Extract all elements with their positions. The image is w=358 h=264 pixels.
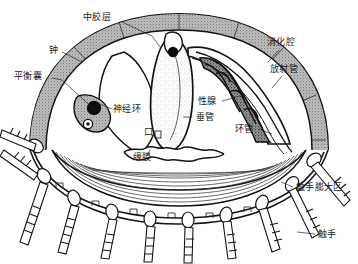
label-manubrium: 垂管 bbox=[196, 111, 215, 122]
label-mesoglea: 中胶层 bbox=[83, 11, 111, 22]
diagram-canvas: 中胶层 钟 平衡囊 神经环 消化腔 放射管 性腺 垂管 口 环管 缘膜 触手膨大… bbox=[0, 0, 358, 264]
label-gonad: 性腺 bbox=[198, 95, 217, 106]
label-tentacle: 触手 bbox=[318, 228, 337, 239]
label-bell: 钟 bbox=[49, 44, 58, 55]
label-mouth: 口 bbox=[144, 127, 153, 137]
nerve-ring-core bbox=[87, 101, 101, 115]
label-radial-canal: 放射管 bbox=[270, 63, 298, 74]
tentacle bbox=[184, 227, 194, 263]
label-ring-canal: 环管 bbox=[235, 123, 254, 134]
label-velum: 缘膜 bbox=[133, 151, 152, 162]
statocyst-node bbox=[83, 119, 92, 128]
label-gastric-cavity: 消化腔 bbox=[267, 36, 295, 47]
label-statocyst: 平衡囊 bbox=[14, 70, 42, 81]
label-nerve-ring: 神经环 bbox=[113, 103, 141, 114]
label-tentacle-bulb-zone: 触手膨大区 bbox=[296, 181, 343, 192]
